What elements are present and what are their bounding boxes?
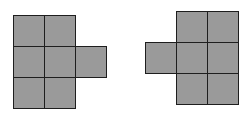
square-cell — [207, 73, 239, 105]
square-cell — [44, 46, 76, 78]
square-cell — [44, 77, 76, 109]
square-cell — [207, 42, 239, 74]
square-cell — [176, 42, 208, 74]
square-cell — [207, 11, 239, 43]
square-cell — [13, 15, 45, 47]
square-cell — [13, 77, 45, 109]
square-cell — [75, 46, 107, 78]
square-cell — [44, 15, 76, 47]
square-cell — [13, 46, 45, 78]
square-cell — [176, 11, 208, 43]
square-cell — [176, 73, 208, 105]
square-cell — [145, 42, 177, 74]
